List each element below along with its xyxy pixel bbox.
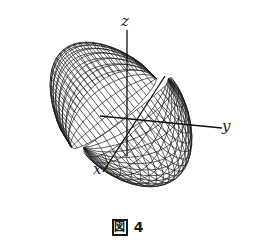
figure-kanji-label: 図 [112,219,128,236]
surface-mesh [50,42,192,187]
wireframe-surface [0,0,255,251]
x-axis-label: x [93,162,101,177]
figure-number: 4 [134,219,144,235]
z-axis-label: z [121,14,129,29]
figure-caption: 図4 [0,218,255,236]
y-axis-label: y [222,119,230,134]
torus-figure: z y x 図4 [0,0,255,251]
y-axis [100,116,222,128]
